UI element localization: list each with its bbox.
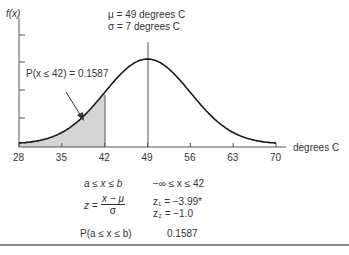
bottom-divider xyxy=(0,244,349,246)
x-tick-label: 56 xyxy=(184,152,195,163)
x-tick-label: 35 xyxy=(56,152,67,163)
z-numerator: x − μ xyxy=(101,193,125,205)
shaded-probability-region xyxy=(19,92,105,147)
z1-value: z₁ = −3.99* xyxy=(153,196,202,207)
x-tick-label: 42 xyxy=(99,152,110,163)
y-ticks xyxy=(19,35,25,118)
probability-expression: P(a ≤ x ≤ b) xyxy=(80,228,132,239)
y-axis-label: f(x) xyxy=(6,8,20,19)
probability-annotation: P(x ≤ 42) = 0.1587 xyxy=(26,68,108,79)
z-formula-fraction: x − μ σ xyxy=(101,193,125,216)
sigma-annotation: σ = 7 degrees C xyxy=(108,21,180,32)
x-tick-label: 49 xyxy=(142,152,153,163)
bounds-general: a ≤ x ≤ b xyxy=(84,178,122,189)
x-tick-label: 63 xyxy=(227,152,238,163)
x-axis-label: degrees C xyxy=(293,142,339,153)
annotation-arrow xyxy=(66,92,81,116)
mu-annotation: μ = 49 degrees C xyxy=(108,9,185,20)
bounds-specific: −∞ ≤ x ≤ 42 xyxy=(153,178,204,189)
x-tick-label: 70 xyxy=(270,152,281,163)
z-denominator: σ xyxy=(101,205,125,216)
probability-value: 0.1587 xyxy=(167,228,198,239)
z-formula-lhs: z = xyxy=(84,200,98,211)
x-tick-label: 28 xyxy=(13,152,24,163)
z2-value: z₂ = −1.0 xyxy=(153,208,193,219)
